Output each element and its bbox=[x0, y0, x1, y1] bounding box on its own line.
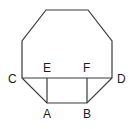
vertex-label-d: D bbox=[117, 73, 126, 85]
geometry-figure: E F C D A B bbox=[0, 0, 135, 129]
octagon-outline bbox=[22, 10, 112, 103]
vertex-label-e: E bbox=[43, 62, 51, 74]
vertex-label-f: F bbox=[83, 62, 90, 74]
vertex-label-b: B bbox=[83, 108, 91, 120]
vertex-label-a: A bbox=[43, 108, 51, 120]
geometry-canvas bbox=[0, 0, 135, 129]
vertex-label-c: C bbox=[8, 73, 17, 85]
